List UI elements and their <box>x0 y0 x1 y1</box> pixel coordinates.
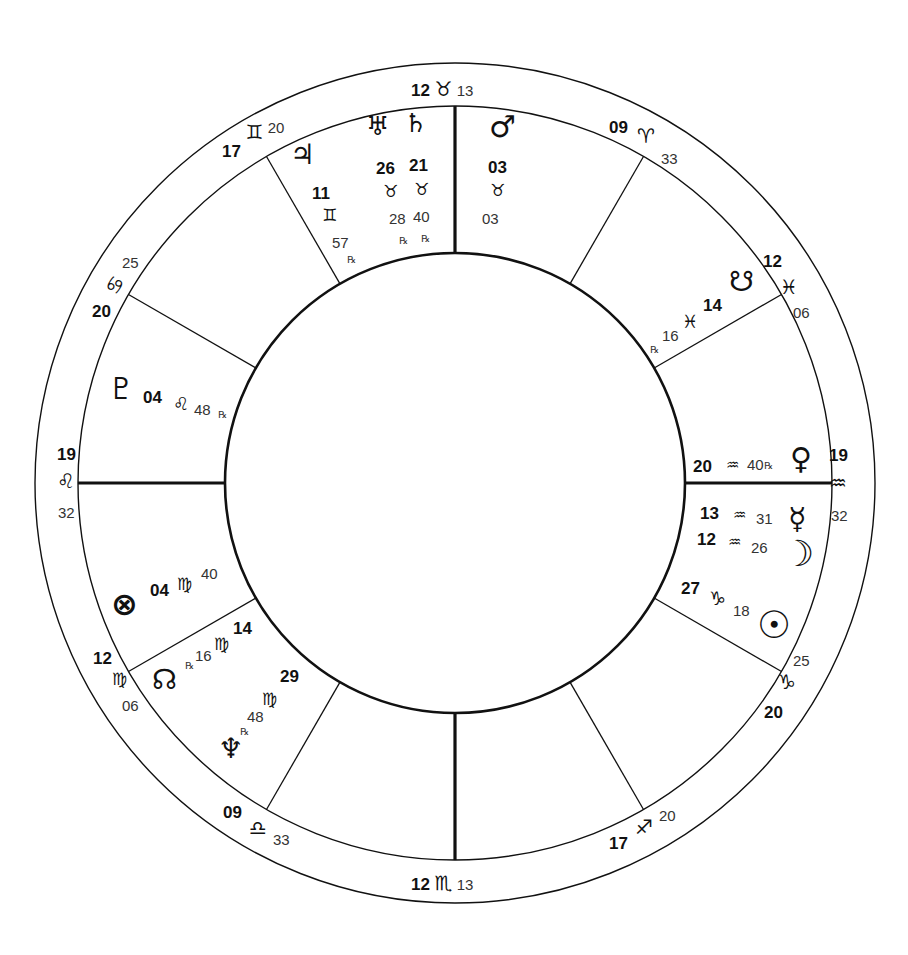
cusp-minute-house-5: 20 <box>659 808 676 823</box>
leo-icon: ♌ <box>57 471 75 491</box>
cusp-degree-house-12: 20 <box>92 303 111 320</box>
house-cusp-line-5 <box>570 682 644 809</box>
part-of-fortune-degree: 04 <box>150 582 169 599</box>
uranus-retrograde: ℞ <box>399 236 408 246</box>
house-cusp-line-3 <box>267 682 341 809</box>
mercury-minute: 31 <box>756 511 773 526</box>
venus-minute: 40 <box>747 457 764 472</box>
cusp-label-house-10: 12 ♉ 13 <box>411 79 473 99</box>
saturn-icon: ♄ <box>404 110 427 136</box>
cusp-minute-house-1: 32 <box>58 505 75 520</box>
part-of-fortune-minute: 40 <box>201 566 218 581</box>
part-of-fortune-sign-virgo-icon: ♍ <box>177 576 192 593</box>
neptune-minute: 48 <box>247 709 264 724</box>
libra-icon: ♎ <box>249 818 267 838</box>
cusp-minute-house-2: 06 <box>122 698 139 713</box>
north-node-retrograde: ℞ <box>185 661 194 671</box>
south-node-minute: 16 <box>662 328 679 343</box>
gemini-icon: ♊ <box>245 120 263 144</box>
cusp-degree-house-1: 19 <box>57 446 76 463</box>
cusp-label-house-4: 12 ♏ 13 <box>411 873 473 893</box>
uranus-icon: ♅ <box>366 113 389 139</box>
pisces-icon: ♓ <box>780 277 798 297</box>
uranus-sign-taurus-icon: ♉ <box>383 183 398 200</box>
cusp-degree-house-5: 17 <box>609 835 628 852</box>
jupiter-sign-gemini-icon: ♊ <box>322 207 337 224</box>
cusp-minute: 13 <box>457 82 474 99</box>
cusp-degree: 17 <box>222 142 241 161</box>
cusp-degree-house-2: 12 <box>93 650 112 667</box>
venus-sign-aquarius-icon: ♒ <box>726 458 739 473</box>
uranus-minute: 28 <box>389 211 406 226</box>
south-node-retrograde: ℞ <box>650 345 659 355</box>
scorpio-icon: ♏ <box>434 871 452 895</box>
cusp-degree-house-7: 19 <box>829 447 848 464</box>
jupiter-retrograde: ℞ <box>347 255 356 265</box>
house-cusp-line-9 <box>570 157 644 284</box>
sun-sign-capricorn-icon: ♑ <box>709 589 726 608</box>
mercury-sign-aquarius-icon: ♒ <box>733 508 746 523</box>
moon-icon: ☽ <box>782 536 814 572</box>
south-node-degree: 14 <box>703 297 722 314</box>
jupiter-icon: ♃ <box>290 141 315 169</box>
neptune-sign-virgo-icon: ♍ <box>262 691 277 708</box>
mars-degree: 03 <box>488 159 507 176</box>
moon-degree: 12 <box>697 531 716 548</box>
capricorn-icon: ♑ <box>778 672 796 692</box>
cusp-minute: 20 <box>268 119 285 136</box>
south-node-sign-pisces-icon: ♓ <box>682 313 698 331</box>
pluto-retrograde: ℞ <box>218 410 227 420</box>
cusp-minute: 13 <box>457 876 474 893</box>
sun-icon: ☉ <box>757 606 791 644</box>
jupiter-degree: 11 <box>312 185 330 202</box>
north-node-sign-virgo-icon: ♍ <box>214 636 229 653</box>
venus-degree: 20 <box>693 458 712 475</box>
venus-icon: ♀ <box>790 444 812 474</box>
cusp-degree-house-6: 20 <box>764 704 783 721</box>
mercury-icon: ☿ <box>788 504 806 534</box>
natal-chart-wheel <box>0 0 908 955</box>
sun-minute: 18 <box>733 603 750 618</box>
cusp-degree: 12 <box>411 875 430 894</box>
cusp-degree-house-8: 12 <box>763 253 782 270</box>
inner-circle <box>225 253 685 713</box>
cusp-minute-house-7: 32 <box>831 508 848 523</box>
saturn-retrograde: ℞ <box>421 234 430 244</box>
cusp-degree-house-9: 09 <box>609 119 628 136</box>
cusp-degree-house-3: 09 <box>223 804 242 821</box>
cusp-minute-house-3: 33 <box>273 832 290 847</box>
uranus-degree: 26 <box>376 160 395 177</box>
cusp-minute-house-6: 25 <box>793 653 810 668</box>
aquarius-icon: ♒ <box>829 473 847 493</box>
mars-minute: 03 <box>482 211 499 226</box>
saturn-sign-taurus-icon: ♉ <box>414 181 429 198</box>
moon-sign-aquarius-icon: ♒ <box>728 535 741 550</box>
north-node-minute: 16 <box>195 648 212 663</box>
south-node-icon: ☋ <box>729 268 754 296</box>
pluto-sign-leo-icon: ♌ <box>173 395 189 413</box>
north-node-degree: 14 <box>233 620 252 637</box>
venus-retrograde: ℞ <box>764 461 773 471</box>
moon-minute: 26 <box>751 540 768 555</box>
saturn-degree: 21 <box>409 157 428 174</box>
house-cusp-line-12 <box>129 295 256 369</box>
aries-icon: ♈ <box>637 126 655 146</box>
mars-icon: ♂ <box>489 112 516 142</box>
neptune-icon: ♆ <box>218 735 243 763</box>
sagittarius-icon: ♐ <box>635 817 653 837</box>
cusp-minute-house-9: 33 <box>661 151 678 166</box>
cusp-label-house-11: 17 ♊ 20 <box>222 122 284 142</box>
neptune-degree: 29 <box>280 668 299 685</box>
north-node-icon: ☊ <box>152 666 177 694</box>
taurus-icon: ♉ <box>434 77 452 101</box>
virgo-icon: ♍ <box>112 671 127 688</box>
part-of-fortune-icon: ⊗ <box>111 588 138 620</box>
mercury-degree: 13 <box>700 505 719 522</box>
pluto-icon: ♇ <box>108 374 135 404</box>
cusp-minute-house-8: 06 <box>793 305 810 320</box>
pluto-degree: 04 <box>143 389 162 406</box>
cusp-minute-house-12: 25 <box>122 255 139 270</box>
pluto-minute: 48 <box>194 402 211 417</box>
mars-sign-taurus-icon: ♉ <box>490 182 505 199</box>
cusp-degree: 12 <box>411 81 430 100</box>
